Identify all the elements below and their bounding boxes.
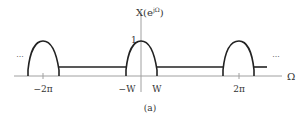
tick-label-neg-w: −W: [119, 84, 137, 94]
spectrum-lobe-right: [223, 41, 254, 76]
y-axis-label: X(ejΩ): [136, 6, 164, 18]
tick-label-neg-2pi: −2π: [33, 84, 52, 94]
spectrum-figure: X(ejΩ) 1 Ω −2π −W W 2π ··· ··· (a): [0, 0, 304, 124]
tick-label-w: W: [152, 84, 162, 94]
peak-value-label: 1: [131, 35, 137, 45]
figure-caption: (a): [144, 103, 156, 113]
x-axis-label: Ω: [287, 71, 295, 82]
ellipsis-left: ···: [16, 52, 24, 61]
ellipsis-right: ···: [272, 52, 280, 61]
tick-label-pos-2pi: 2π: [233, 84, 245, 94]
spectrum-lobe-left: [28, 41, 59, 76]
